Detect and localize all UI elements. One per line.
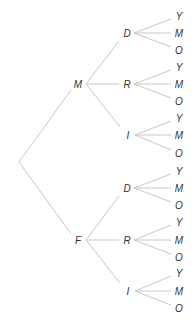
node-f-i: I — [127, 286, 130, 297]
leaf-m-d-o: O — [175, 45, 183, 56]
edge-f-i — [86, 240, 120, 283]
leaf-m-i-o: O — [175, 148, 183, 159]
edge-f-r-y — [134, 225, 171, 240]
edge-m-i-o — [135, 135, 171, 150]
leaf-f-i-m: M — [175, 286, 184, 297]
leaf-f-i-o: O — [175, 303, 183, 314]
leaf-m-r-y: Y — [176, 62, 184, 73]
node-level1-f: F — [75, 235, 82, 246]
edge-f-i-y — [135, 276, 171, 291]
leaf-m-d-m: M — [175, 28, 184, 39]
edge-f-d-y — [134, 174, 171, 188]
leaf-f-d-m: M — [175, 183, 184, 194]
leaf-f-d-y: Y — [176, 166, 184, 177]
tree-labels: M F D R I D R I Y M O Y M O Y M O Y M O … — [74, 11, 184, 314]
leaf-m-r-o: O — [175, 96, 183, 107]
node-level1-m: M — [74, 79, 83, 90]
tree-diagram: M F D R I D R I Y M O Y M O Y M O Y M O … — [0, 0, 192, 323]
edge-m-r-y — [134, 70, 171, 84]
edge-root-m — [19, 90, 71, 162]
node-m-r: R — [123, 79, 130, 90]
edge-f-d — [86, 196, 119, 240]
edge-f-d-o — [134, 188, 171, 202]
edge-m-d-o — [134, 33, 171, 47]
edge-m-i — [86, 84, 120, 127]
edge-root-f — [19, 162, 71, 234]
edge-f-r-o — [134, 240, 171, 254]
edge-m-d — [86, 41, 119, 84]
edge-m-r-o — [134, 84, 171, 98]
leaf-m-r-m: M — [175, 79, 184, 90]
leaf-m-d-y: Y — [176, 11, 184, 22]
node-m-i: I — [127, 130, 130, 141]
leaf-f-i-y: Y — [176, 268, 184, 279]
edge-m-d-y — [134, 19, 171, 33]
leaf-f-r-y: Y — [176, 217, 184, 228]
leaf-f-r-m: M — [175, 235, 184, 246]
leaf-m-i-y: Y — [176, 113, 184, 124]
leaf-f-r-o: O — [175, 252, 183, 263]
tree-edges — [19, 19, 171, 305]
leaf-m-i-m: M — [175, 130, 184, 141]
node-f-r: R — [123, 235, 130, 246]
leaf-f-d-o: O — [175, 200, 183, 211]
node-f-d: D — [123, 183, 130, 194]
edge-f-i-o — [135, 291, 171, 305]
node-m-d: D — [123, 28, 130, 39]
edge-m-i-y — [135, 121, 171, 135]
